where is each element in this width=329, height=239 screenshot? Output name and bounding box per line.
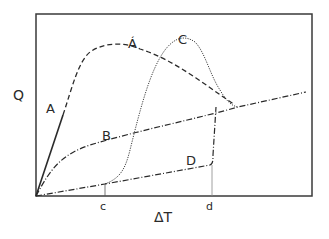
curve-a [36, 115, 63, 196]
curve-b-label: B [102, 128, 111, 143]
curve-a-prime [63, 44, 235, 115]
curve-c-label: C [178, 32, 187, 47]
q-vs-delta-t-diagram: Q ΔT c d A Á B C D [0, 0, 329, 239]
x-tick-label-d: d [206, 200, 213, 213]
curve-a-prime-label: Á [128, 36, 137, 51]
curve-d [36, 107, 216, 196]
x-axis-label: ΔT [154, 209, 173, 225]
curve-a-label: A [46, 101, 55, 116]
curve-c [105, 38, 238, 184]
curve-d-label: D [186, 153, 196, 168]
y-axis-label: Q [13, 87, 24, 103]
curve-b [36, 92, 306, 196]
x-tick-label-c: c [100, 200, 106, 213]
